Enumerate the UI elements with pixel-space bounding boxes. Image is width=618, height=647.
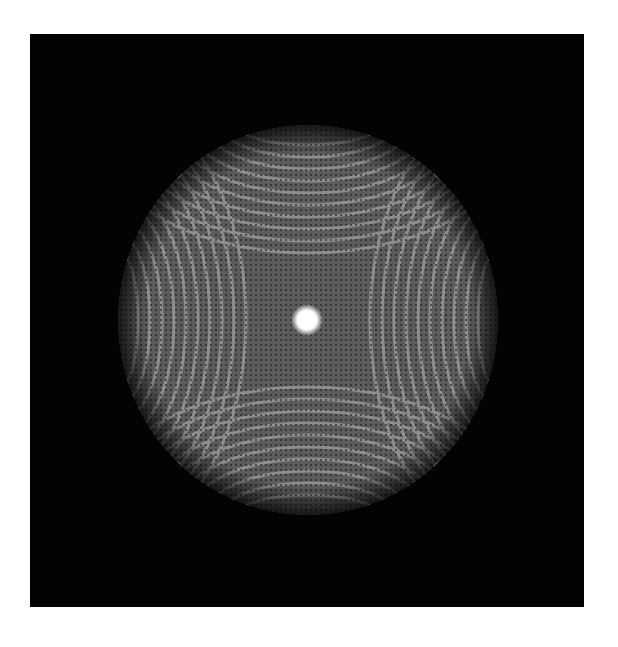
image-frame bbox=[30, 34, 584, 607]
diffraction-pattern bbox=[30, 34, 584, 607]
